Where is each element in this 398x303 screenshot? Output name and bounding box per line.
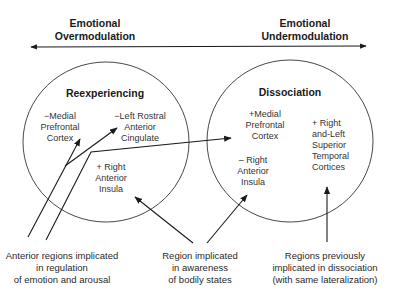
- dissoc-stc-line-5: Cortices: [312, 162, 346, 172]
- dissoc-medial-pfc-line-1: +Medial: [249, 109, 281, 119]
- undermodulation-label-line-2: Undermodulation: [262, 30, 349, 42]
- undermodulation-label-line-1: Emotional: [280, 17, 331, 29]
- reexp-medial-pfc-line-1: −Medial: [44, 111, 76, 121]
- caption-bodily-awareness: Region implicated in awareness of bodily…: [162, 250, 238, 285]
- dissoc-medial-pfc-label: +Medial Prefrontal Cortex: [245, 109, 284, 141]
- caption-anterior-line-2: in regulation: [36, 262, 88, 273]
- caption-dissociation-line-3: (with same lateralization): [272, 274, 377, 285]
- dissoc-insula-line-2: Anterior: [237, 166, 269, 176]
- caption-anterior-regions: Anterior regions implicated in regulatio…: [6, 250, 118, 285]
- reexp-insula-line-1: + Right: [97, 162, 126, 172]
- overmodulation-label-line-2: Overmodulation: [55, 30, 136, 42]
- undermodulation-label: Emotional Undermodulation: [262, 17, 349, 42]
- dissoc-insula-line-1: – Right: [239, 155, 268, 165]
- arrow-to-dissoc-medial-pfc: [46, 138, 231, 240]
- reexp-medial-pfc-label: −Medial Prefrontal Cortex: [40, 111, 79, 143]
- reexp-medial-pfc-line-3: Cortex: [47, 133, 74, 143]
- caption-anterior-line-3: of emotion and arousal: [14, 274, 111, 285]
- reexp-left-rostral-acc-label: −Left Rostral Anterior Cingulate: [114, 111, 165, 143]
- reexp-lracc-line-3: Cingulate: [121, 133, 159, 143]
- reexp-right-insula-label: + Right Anterior Insula: [95, 162, 127, 194]
- caption-prior-dissociation: Regions previously implicated in dissoci…: [272, 250, 377, 285]
- reexp-medial-pfc-line-2: Prefrontal: [40, 122, 79, 132]
- arrow-to-reexp-right-insula: [135, 197, 193, 243]
- caption-anterior-line-1: Anterior regions implicated: [6, 250, 118, 261]
- dissoc-medial-pfc-line-2: Prefrontal: [245, 120, 284, 130]
- reexp-lracc-line-2: Anterior: [124, 122, 156, 132]
- dissoc-stc-line-1: + Right: [312, 118, 341, 128]
- overmodulation-label-line-1: Emotional: [70, 17, 121, 29]
- dissoc-right-insula-label: – Right Anterior Insula: [237, 155, 269, 187]
- caption-bodily-line-3: of bodily states: [168, 274, 232, 285]
- caption-bodily-line-2: in awareness: [172, 262, 228, 273]
- reexp-lracc-line-1: −Left Rostral: [114, 111, 165, 121]
- modulation-axis-arrow: [31, 46, 366, 47]
- dissociation-circle: [207, 60, 373, 222]
- dissoc-medial-pfc-line-3: Cortex: [252, 131, 279, 141]
- caption-dissociation-line-1: Regions previously: [285, 250, 366, 261]
- caption-dissociation-line-2: implicated in dissociation: [272, 262, 377, 273]
- dissoc-stc-line-2: and-Left: [312, 129, 346, 139]
- dissociation-title: Dissociation: [259, 86, 321, 98]
- diagram-canvas: Emotional Overmodulation Emotional Under…: [0, 0, 398, 303]
- dissoc-insula-line-3: Insula: [241, 177, 265, 187]
- caption-bodily-line-1: Region implicated: [162, 250, 238, 261]
- overmodulation-label: Emotional Overmodulation: [55, 17, 136, 42]
- reexp-insula-line-2: Anterior: [95, 173, 127, 183]
- arrow-to-dissoc-right-insula: [207, 195, 247, 243]
- dissoc-stc-line-4: Temporal: [312, 151, 349, 161]
- reexperiencing-title: Reexperiencing: [66, 87, 144, 99]
- reexp-insula-line-3: Insula: [99, 184, 123, 194]
- dissoc-stc-line-3: Superior: [312, 140, 346, 150]
- dissoc-superior-temporal-label: + Right and-Left Superior Temporal Corti…: [312, 118, 349, 172]
